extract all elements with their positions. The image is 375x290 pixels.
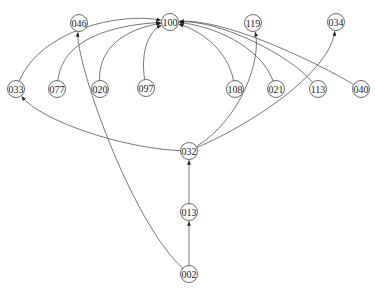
- node-002[interactable]: 002: [181, 266, 198, 283]
- edge-033-to-100: [19, 18, 160, 81]
- node-label: 113: [311, 84, 326, 95]
- edge-097-to-100: [143, 26, 161, 80]
- node-label: 032: [182, 146, 197, 157]
- node-label: 040: [354, 84, 369, 95]
- node-077[interactable]: 077: [49, 81, 66, 98]
- node-097[interactable]: 097: [138, 80, 155, 97]
- node-label: 046: [72, 18, 87, 29]
- edge-040-to-100: [179, 21, 353, 84]
- node-label: 021: [269, 84, 284, 95]
- edge-032-to-033: [22, 97, 181, 151]
- node-033[interactable]: 033: [8, 81, 25, 98]
- edge-108-to-100: [179, 24, 233, 80]
- edge-113-to-100: [179, 22, 312, 83]
- node-113[interactable]: 113: [310, 81, 327, 98]
- node-032[interactable]: 032: [181, 143, 198, 160]
- node-046[interactable]: 046: [71, 15, 88, 32]
- node-013[interactable]: 013: [181, 204, 198, 221]
- node-040[interactable]: 040: [353, 81, 370, 98]
- node-label: 077: [50, 84, 65, 95]
- node-label: 100: [163, 17, 178, 28]
- node-label: 097: [139, 83, 154, 94]
- node-100[interactable]: 100: [162, 14, 179, 31]
- edge-020-to-100: [100, 23, 161, 80]
- node-label: 033: [9, 84, 24, 95]
- edge-021-to-100: [179, 23, 273, 81]
- nodes-layer: 0461001190340330770200971080211130400320…: [8, 14, 370, 283]
- edge-077-to-100: [58, 22, 161, 80]
- node-021[interactable]: 021: [268, 81, 285, 98]
- dependency-graph: 0461001190340330770200971080211130400320…: [0, 0, 375, 290]
- node-label: 013: [182, 207, 197, 218]
- node-label: 020: [93, 84, 108, 95]
- node-108[interactable]: 108: [227, 81, 244, 98]
- edge-002-to-046: [78, 32, 183, 268]
- node-label: 108: [228, 84, 243, 95]
- node-034[interactable]: 034: [328, 14, 345, 31]
- node-label: 034: [329, 17, 344, 28]
- node-119[interactable]: 119: [245, 15, 262, 32]
- node-label: 002: [182, 269, 197, 280]
- node-label: 119: [246, 18, 261, 29]
- node-020[interactable]: 020: [92, 81, 109, 98]
